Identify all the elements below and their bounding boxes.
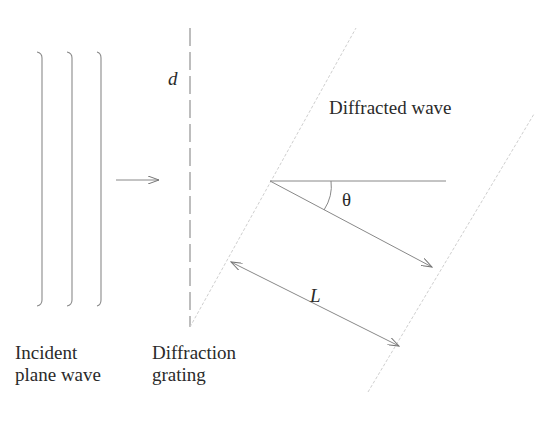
incident-label-line2: plane wave <box>15 364 101 386</box>
diffraction-diagram: d Diffracted wave θ L Incident plane wav… <box>0 0 550 424</box>
wavefront-2 <box>67 52 72 306</box>
wavefront-3 <box>97 52 101 306</box>
wavefront-boundary-right <box>368 114 534 392</box>
length-label: L <box>310 285 321 307</box>
incident-wave-label: Incident plane wave <box>15 342 101 386</box>
grating-label-line2: grating <box>152 364 236 386</box>
grating-label: Diffraction grating <box>152 342 236 386</box>
spacing-label: d <box>168 68 178 90</box>
wavefront-boundary-left <box>190 28 356 327</box>
wavefront-1 <box>37 52 42 306</box>
angle-arc <box>324 181 331 210</box>
angle-label: θ <box>342 189 351 211</box>
incident-label-line1: Incident <box>15 342 101 364</box>
incident-wavefronts <box>37 52 101 306</box>
diffracted-wave-label: Diffracted wave <box>329 97 452 119</box>
grating-label-line1: Diffraction <box>152 342 236 364</box>
